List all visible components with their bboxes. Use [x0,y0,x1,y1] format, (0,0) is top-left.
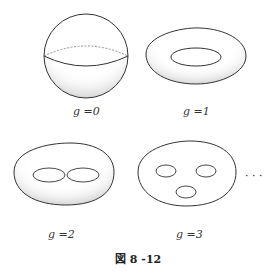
torus-surface [146,28,246,84]
label-genus-2: g =2 [48,228,75,241]
triple-torus-surface [138,141,236,206]
label-genus-1: g =1 [183,105,210,118]
label-genus-3: g =3 [176,228,203,241]
genus-surfaces-diagram [0,0,276,274]
figure-caption: 図 8 -12 [115,250,161,266]
double-torus-surface [14,143,114,205]
ellipsis: · · · [245,170,262,183]
sphere-surface [44,14,128,98]
label-genus-0: g =0 [73,105,100,118]
